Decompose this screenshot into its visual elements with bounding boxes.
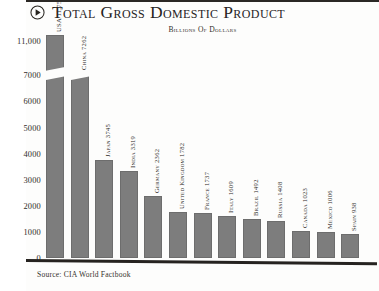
bar[interactable] (267, 221, 285, 258)
bar-label: Italy 1609 (226, 181, 236, 216)
bar[interactable] (95, 160, 113, 258)
y-axis-tick: 3000 (23, 175, 41, 184)
y-axis-tick: 5000 (23, 123, 41, 132)
bar-label: Mexico 1006 (325, 190, 335, 232)
chart-header: Total Gross Domestic Product (30, 1, 285, 24)
bar[interactable] (71, 73, 89, 258)
bar[interactable] (169, 212, 187, 259)
bar-label: France 1737 (202, 171, 212, 212)
bar[interactable] (341, 234, 359, 258)
y-axis: 11,00070006000500040003000200010000 (0, 36, 44, 266)
bar-label: Japan 3745 (103, 124, 113, 160)
bar[interactable] (194, 213, 212, 258)
bar-label: Brazil 1492 (251, 179, 261, 219)
bar-label: Spain 938 (349, 202, 359, 234)
bars-container: USA 11,750China 7262Japan 3745India 3319… (44, 36, 379, 266)
gdp-chart-page: Total Gross Domestic Product Billions of… (0, 0, 379, 291)
y-axis-tick: 7000 (23, 71, 41, 80)
bar-label: Germany 2362 (152, 149, 162, 196)
bar[interactable] (120, 171, 138, 258)
bar[interactable] (292, 231, 310, 258)
y-axis-tick: 6000 (23, 97, 41, 106)
y-axis-tick: 11,000 (17, 37, 41, 46)
bar[interactable] (243, 219, 261, 258)
bar[interactable] (317, 232, 335, 258)
source-note: Source: CIA World Factbook (37, 270, 131, 279)
bar-label: Canada 1023 (300, 188, 310, 231)
y-axis-tick: 1000 (23, 227, 41, 236)
page-title: Total Gross Domestic Product (52, 2, 285, 23)
y-axis-tick: 4000 (23, 149, 41, 158)
y-axis-tick: 2000 (23, 201, 41, 210)
bar-label: USA 11,750 (54, 0, 64, 35)
chart-plot-area: 11,00070006000500040003000200010000 USA … (0, 36, 379, 266)
bar-label: United Kingdom 1782 (177, 142, 187, 211)
bar-label: India 3319 (128, 136, 138, 171)
bar-label: China 7262 (79, 36, 89, 73)
bar[interactable] (144, 196, 162, 258)
bar[interactable] (218, 216, 236, 258)
bar-label: Russia 1408 (275, 182, 285, 221)
circled-play-icon (30, 5, 45, 20)
